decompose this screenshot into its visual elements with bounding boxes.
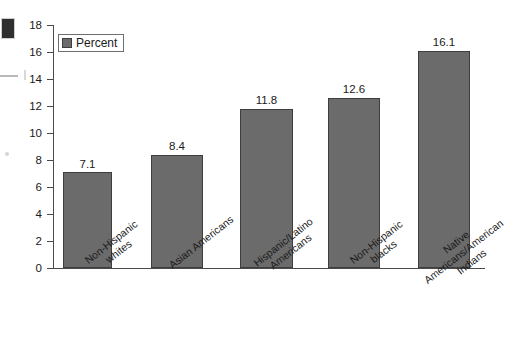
y-axis-tick: 16: [47, 52, 53, 53]
y-axis-tick-label: 14: [29, 74, 42, 86]
bar-chart-figure: 024681012141618 7.18.411.812.616.1 Non-H…: [0, 0, 508, 352]
y-axis-tick: 4: [47, 214, 53, 215]
y-axis-tick-label: 8: [36, 155, 42, 167]
y-axis-tick-label: 18: [29, 20, 42, 32]
scan-artifact-speck: [5, 152, 9, 156]
scan-artifact-dash: [0, 75, 18, 77]
y-axis-tick: 8: [47, 160, 53, 161]
y-axis-tick: 14: [47, 79, 53, 80]
y-axis-tick: 2: [47, 241, 53, 242]
y-axis-tick-label: 0: [36, 263, 42, 275]
bar-value-label: 12.6: [343, 84, 365, 96]
y-axis-tick: 12: [47, 106, 53, 107]
scan-artifact-tick: [24, 70, 26, 80]
bar-value-label: 11.8: [256, 95, 278, 107]
y-axis-tick-label: 2: [36, 236, 42, 248]
legend-label-percent: Percent: [76, 37, 117, 49]
bar-value-label: 7.1: [80, 159, 96, 171]
y-axis-tick-label: 6: [36, 182, 42, 194]
legend-swatch-percent: [62, 38, 72, 48]
y-axis-tick: 18: [47, 25, 53, 26]
scan-artifact-block: [1, 18, 15, 39]
y-axis-tick-label: 10: [29, 128, 42, 140]
y-axis-tick: 0: [47, 268, 53, 269]
y-axis-tick: 6: [47, 187, 53, 188]
y-axis-tick-label: 4: [36, 209, 42, 221]
bar-value-label: 8.4: [169, 141, 185, 153]
y-axis-tick-label: 12: [29, 101, 42, 113]
y-axis-tick-label: 16: [29, 47, 42, 59]
y-axis-line: [53, 25, 54, 269]
y-axis-tick: 10: [47, 133, 53, 134]
chart-legend: Percent: [58, 34, 124, 52]
bar-value-label: 16.1: [433, 37, 455, 49]
